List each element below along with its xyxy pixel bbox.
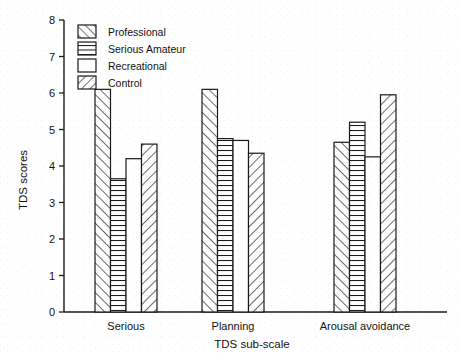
chart-figure: 012345678 SeriousPlanningArousal avoidan…	[0, 0, 459, 358]
legend-label-recreational: Recreational	[108, 60, 167, 72]
x-axis-category-labels: SeriousPlanningArousal avoidance	[107, 320, 410, 332]
x-axis-title: TDS sub-scale	[214, 338, 289, 350]
grouped-bar-chart: 012345678 SeriousPlanningArousal avoidan…	[0, 0, 459, 358]
bar-group-container	[95, 89, 396, 312]
bar-professional-arousal-avoidance	[334, 142, 350, 312]
bar-recreational-planning	[233, 140, 249, 312]
legend-label-serious-amateur: Serious Amateur	[108, 43, 186, 55]
y-tick-label: 5	[49, 124, 55, 136]
x-category-label: Serious	[107, 320, 145, 332]
bar-serious-amateur-serious	[111, 179, 127, 312]
legend-swatch-professional	[78, 25, 96, 38]
bar-control-serious	[142, 144, 158, 312]
bar-control-planning	[249, 153, 265, 312]
bar-professional-planning	[202, 89, 218, 312]
x-category-label: Planning	[212, 320, 255, 332]
y-tick-label: 4	[49, 160, 55, 172]
y-tick-label: 1	[49, 270, 55, 282]
legend-swatch-recreational	[78, 59, 96, 72]
legend-swatch-control	[78, 76, 96, 89]
y-axis-ticks: 012345678	[49, 14, 64, 318]
y-tick-label: 7	[49, 51, 55, 63]
y-axis-title: TDS scores	[17, 150, 29, 210]
legend: ProfessionalSerious AmateurRecreationalC…	[78, 25, 186, 89]
legend-swatch-serious-amateur	[78, 42, 96, 55]
bar-professional-serious	[95, 89, 111, 312]
legend-label-professional: Professional	[108, 26, 166, 38]
bar-control-arousal-avoidance	[381, 95, 397, 312]
y-tick-label: 0	[49, 306, 55, 318]
y-tick-label: 6	[49, 87, 55, 99]
x-category-label: Arousal avoidance	[320, 320, 411, 332]
y-tick-label: 3	[49, 197, 55, 209]
y-tick-label: 8	[49, 14, 55, 26]
bar-serious-amateur-arousal-avoidance	[350, 122, 366, 312]
bar-recreational-serious	[126, 159, 142, 312]
bar-recreational-arousal-avoidance	[365, 157, 381, 312]
legend-label-control: Control	[108, 77, 142, 89]
bar-serious-amateur-planning	[218, 139, 234, 312]
y-tick-label: 2	[49, 233, 55, 245]
